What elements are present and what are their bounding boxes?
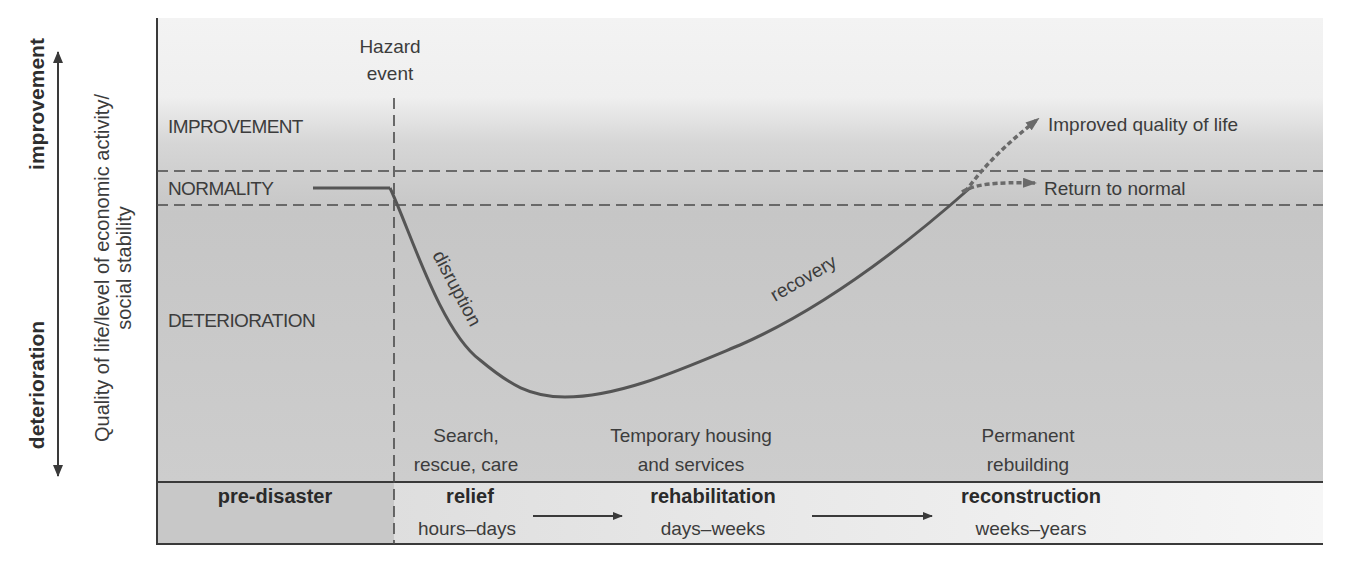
region-deterioration-label: DETERIORATION — [168, 310, 315, 331]
phase-reconstruction-label: reconstruction — [961, 485, 1101, 507]
hazard-event-label-line1: Hazard — [359, 36, 420, 57]
activity-reconstruction-line1: Permanent — [982, 425, 1076, 446]
region-improvement-label: IMPROVEMENT — [168, 116, 304, 137]
activity-rehab-line2: and services — [638, 454, 745, 475]
phase-rehabilitation-duration: days–weeks — [661, 518, 766, 539]
outcome-normal-label: Return to normal — [1044, 178, 1186, 199]
y-axis-label-line1: Quality of life/level of economic activi… — [91, 94, 113, 442]
y-axis-label-line2: social stability — [113, 206, 135, 329]
axis-improvement-label: improvement — [25, 38, 48, 170]
hazard-event-label-line2: event — [367, 63, 414, 84]
disaster-recovery-diagram: improvement deterioration Quality of lif… — [0, 0, 1345, 573]
activity-relief-line1: Search, — [433, 425, 498, 446]
axis-deterioration-label: deterioration — [25, 321, 48, 449]
phase-relief-duration: hours–days — [418, 518, 516, 539]
activity-reconstruction-line2: rebuilding — [987, 454, 1069, 475]
phase-reconstruction-duration: weeks–years — [975, 518, 1087, 539]
phase-rehabilitation-label: rehabilitation — [650, 485, 776, 507]
activity-relief-line2: rescue, care — [414, 454, 519, 475]
chart-panel — [157, 18, 1323, 482]
phase-pre-disaster-label: pre-disaster — [218, 485, 333, 507]
activity-rehab-line1: Temporary housing — [610, 425, 772, 446]
phase-relief-label: relief — [446, 485, 494, 507]
outcome-improved-label: Improved quality of life — [1048, 114, 1238, 135]
region-normality-label: NORMALITY — [168, 178, 274, 199]
